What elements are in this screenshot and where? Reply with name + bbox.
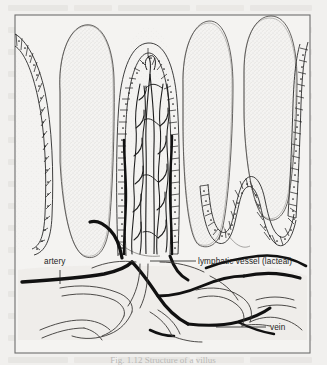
villus-body-1 [60, 26, 114, 257]
figure-caption: Fig. 1.12 Structure of a villus [110, 355, 216, 365]
label-artery: artery [44, 257, 66, 266]
figure-container: artery lymphatic vessel (lacteal) vein F… [0, 0, 327, 365]
label-vein: vein [270, 323, 286, 332]
label-lymphatic-vessel: lymphatic vessel (lacteal) [198, 257, 292, 266]
villi-diagram: artery lymphatic vessel (lacteal) vein F… [0, 0, 327, 365]
